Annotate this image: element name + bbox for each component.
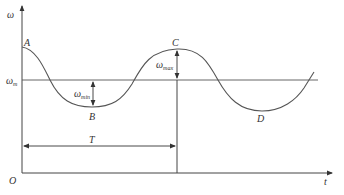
- point-d-label: D: [256, 113, 265, 124]
- omega-min-label: ωmin: [74, 88, 90, 100]
- point-c-label: C: [172, 37, 179, 48]
- point-a-label: A: [23, 37, 31, 48]
- x-axis-label: t: [324, 176, 327, 187]
- origin-label: O: [9, 175, 16, 186]
- y-axis-label: ω: [7, 9, 14, 20]
- omega-max-label: ωmax: [156, 59, 173, 71]
- point-b-label: B: [89, 111, 95, 122]
- omega-time-diagram: ω t O ωm A B C D ωmin ωmax T: [0, 0, 344, 195]
- omega-m-label: ωm: [6, 75, 18, 87]
- period-label: T: [89, 134, 96, 145]
- omega-curve: [22, 47, 314, 111]
